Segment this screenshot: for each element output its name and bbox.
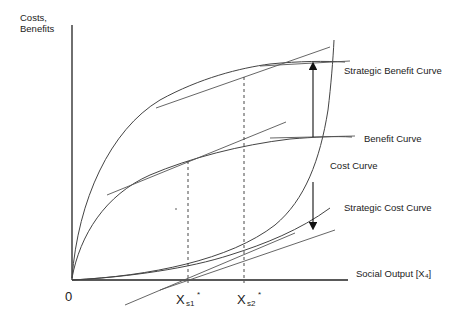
strategic-cost-curve bbox=[72, 208, 330, 280]
svg-text:X: X bbox=[237, 292, 246, 307]
svg-text:*: * bbox=[258, 290, 261, 299]
cost-benefit-diagram: Costs, Benefits Strategic Benefit Curve … bbox=[0, 0, 458, 323]
xs2-tick-label: X s2 * bbox=[237, 290, 261, 308]
benefit-curve-label: Benefit Curve bbox=[364, 133, 422, 144]
optimal-output-markers bbox=[188, 77, 244, 283]
strategic-cost-curve-label: Strategic Cost Curve bbox=[344, 202, 432, 213]
svg-text:s1: s1 bbox=[186, 299, 195, 308]
strategic-benefit-curve-label: Strategic Benefit Curve bbox=[344, 65, 442, 76]
origin-label: 0 bbox=[65, 289, 72, 304]
xs1-tick-label: X s1 * bbox=[176, 290, 200, 308]
strategic-benefit-curve bbox=[72, 61, 345, 278]
svg-text:X: X bbox=[176, 292, 185, 307]
y-axis-label-line2: Benefits bbox=[20, 23, 55, 34]
x-axis-label: Social Output [X₄] bbox=[356, 268, 431, 279]
svg-text:s2: s2 bbox=[247, 299, 256, 308]
cost-curve-label: Cost Curve bbox=[330, 160, 378, 171]
y-axis-label-line1: Costs, bbox=[20, 12, 47, 23]
stray-dot bbox=[175, 208, 177, 210]
svg-text:*: * bbox=[197, 290, 200, 299]
tangent-lines bbox=[107, 47, 355, 305]
